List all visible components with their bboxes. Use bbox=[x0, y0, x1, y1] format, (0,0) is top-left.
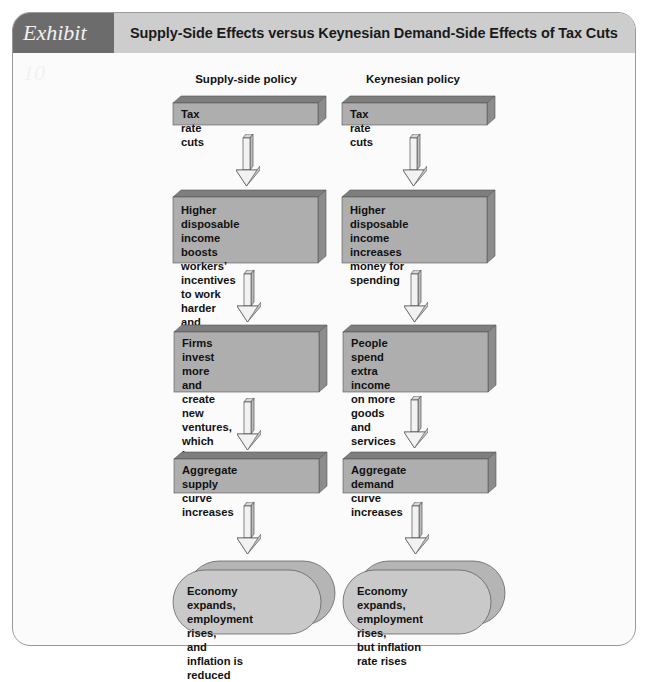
step-text: Aggregate demand curve increases bbox=[351, 463, 406, 519]
down-arrow-icon bbox=[405, 502, 429, 560]
outcome-text: Economy expands, employment rises, and i… bbox=[187, 584, 253, 682]
step-text: People spend extra income on more goods … bbox=[351, 336, 396, 448]
keynesian-heading: Keynesian policy bbox=[333, 73, 493, 85]
supply-side-heading: Supply-side policy bbox=[166, 73, 326, 85]
exhibit-label: Exhibit 10 bbox=[13, 13, 114, 53]
exhibit-header: Exhibit 10 Supply-Side Effects versus Ke… bbox=[13, 13, 635, 53]
down-arrow-icon bbox=[404, 396, 428, 454]
step-text: Tax rate cuts bbox=[181, 107, 204, 149]
down-arrow-icon bbox=[404, 270, 428, 328]
step-text: Tax rate cuts bbox=[350, 107, 373, 149]
down-arrow-icon bbox=[237, 270, 261, 328]
down-arrow-icon bbox=[403, 134, 427, 192]
down-arrow-icon bbox=[237, 502, 261, 560]
step-text: Aggregate supply curve increases bbox=[182, 463, 237, 519]
step-text: Higher disposable income increases money… bbox=[350, 203, 408, 287]
exhibit-title: Supply-Side Effects versus Keynesian Dem… bbox=[130, 13, 618, 53]
down-arrow-icon bbox=[237, 398, 261, 456]
outcome-text: Economy expands, employment rises, but i… bbox=[357, 584, 423, 668]
down-arrow-icon bbox=[236, 134, 260, 192]
